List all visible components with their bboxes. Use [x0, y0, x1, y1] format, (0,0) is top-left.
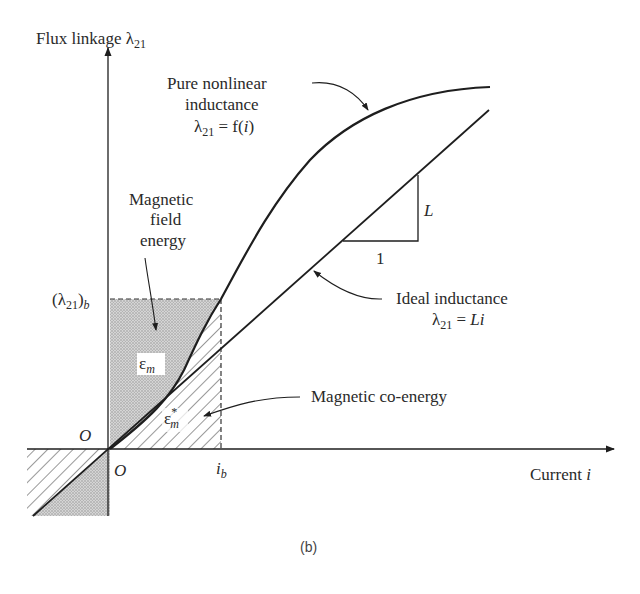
ideal-leader-arrow [314, 271, 382, 299]
nonlinear-equation: λ21 = f(i) [194, 117, 254, 139]
nonlinear-label-line1: Pure nonlinear [167, 74, 267, 93]
y-axis-label: Flux linkage λ21 [36, 29, 146, 51]
field-energy-label-line2: field [150, 210, 182, 229]
field-energy-label-line1: Magnetic [129, 190, 194, 209]
lambda-b-label: (λ21)b [52, 290, 90, 312]
origin-label-bottom: O [114, 461, 126, 480]
slope-rise-label: L [423, 201, 433, 220]
x-axis-label: Current i [530, 465, 591, 484]
i-b-label: ib [216, 459, 227, 481]
co-energy-label: Magnetic co-energy [311, 387, 448, 406]
coenergy-symbol: ε*m [164, 405, 179, 431]
nonlinear-leader-arrow [312, 83, 368, 110]
nonlinear-label-line2: inductance [185, 95, 259, 114]
ideal-inductance-line [33, 110, 489, 516]
field-energy-label-line3: energy [140, 231, 186, 250]
slope-run-label: 1 [376, 249, 385, 268]
flux-current-diagram: Flux linkage λ21 Current i O O (λ21)b ib… [0, 0, 640, 594]
figure-caption: (b) [300, 539, 317, 555]
origin-label-left: O [79, 426, 91, 445]
ideal-equation: λ21 = Li [432, 310, 485, 332]
ideal-label-line1: Ideal inductance [396, 289, 508, 308]
